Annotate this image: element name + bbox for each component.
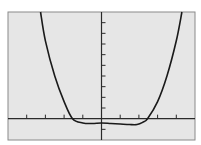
graph-screen <box>0 0 201 145</box>
